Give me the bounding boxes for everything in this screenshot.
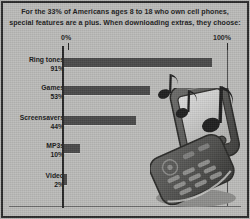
bar-category-text: Ring tones [29, 56, 64, 63]
bar-games [64, 86, 150, 95]
axis-right-rule [227, 50, 228, 206]
bar-screensavers [64, 116, 136, 125]
axis-tick-label-100: 100% [213, 34, 231, 41]
bar-label-ring-tones: Ring tones91% [29, 56, 64, 73]
bar-label-games: Games53% [41, 84, 64, 101]
bar-mp3s [64, 144, 80, 153]
axis-tick-mark-100 [227, 43, 228, 50]
bar-value-text: 44% [20, 123, 64, 132]
bar-ring-tones [64, 58, 212, 67]
infographic-panel: For the 33% of Americans ages 8 to 18 wh… [0, 0, 250, 219]
bar-chart-plot: Ring tones91%Games53%Screensavers44%MP3s… [0, 0, 250, 219]
bar-category-text: Games [41, 84, 64, 91]
bar-value-text: 91% [29, 65, 64, 74]
axis-tick-label-0: 0% [61, 34, 71, 41]
bar-label-screensavers: Screensavers44% [20, 114, 64, 131]
axis-tick-mark-0 [68, 43, 69, 50]
bar-category-text: Screensavers [20, 114, 64, 121]
bar-video [64, 174, 67, 185]
axis-baseline [62, 46, 64, 208]
bar-value-text: 53% [41, 93, 64, 102]
